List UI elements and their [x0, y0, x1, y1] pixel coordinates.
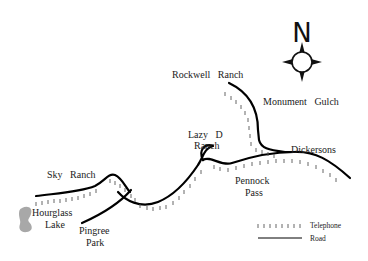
- label-pingree-1: Pingree: [79, 225, 110, 236]
- label-sky-ranch: Sky Ranch: [47, 169, 96, 180]
- road-pingree: [82, 190, 131, 223]
- legend-road-label: Road: [310, 234, 326, 243]
- label-pingree-2: Park: [86, 237, 104, 248]
- road-main-east: [203, 152, 350, 178]
- road-lazy-d-west: [118, 145, 213, 204]
- map-canvas: N Rockwell Ranch Monument: [0, 0, 368, 261]
- hourglass-lake: [19, 207, 32, 232]
- legend: Telephone Road: [258, 221, 342, 243]
- label-hourglass-2: Lake: [45, 219, 66, 230]
- label-monument-gulch: Monument Gulch: [263, 96, 339, 107]
- label-dickersons: Dickersons: [291, 144, 336, 155]
- legend-telephone-label: Telephone: [310, 221, 342, 230]
- label-pennock-2: Pass: [245, 187, 263, 198]
- label-hourglass-1: Hourglass: [32, 207, 72, 218]
- label-rockwell-ranch: Rockwell Ranch: [172, 69, 243, 80]
- label-pennock-1: Pennock: [235, 175, 269, 186]
- legend-telephone-symbol: [258, 224, 300, 228]
- label-lazy-d-2: Ranch: [194, 140, 220, 151]
- road-rockwell: [229, 83, 294, 152]
- compass-star-icon: [282, 42, 322, 82]
- label-lazy-d-1: Lazy D: [188, 129, 223, 140]
- compass-rose: N: [282, 18, 322, 82]
